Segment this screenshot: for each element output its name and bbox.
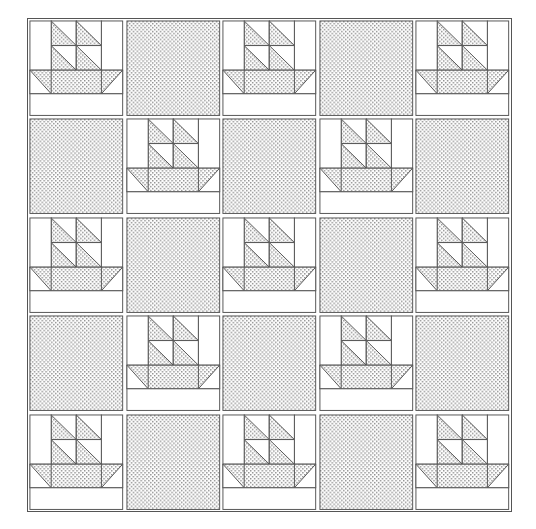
quilt-block-plain-shaded-r0c1 bbox=[125, 19, 222, 117]
quilt-block-plain-shaded-r3c4 bbox=[414, 314, 511, 412]
quilt-block-sailboat-r1c3 bbox=[318, 117, 415, 215]
quilt-block-plain-shaded-r1c0 bbox=[28, 117, 125, 215]
sailboat-block-art bbox=[28, 216, 125, 314]
quilt-block-plain-shaded-r3c0 bbox=[28, 314, 125, 412]
quilt-block-plain-shaded-r4c1 bbox=[125, 413, 222, 511]
quilt-block-plain-shaded-r0c3 bbox=[318, 19, 415, 117]
plain-shaded-block-art bbox=[318, 413, 415, 511]
sailboat-block-art bbox=[414, 216, 511, 314]
plain-shaded-block-art bbox=[221, 314, 318, 412]
sailboat-block-art bbox=[414, 19, 511, 117]
sailboat-block-art bbox=[414, 413, 511, 511]
quilt-block-sailboat-r4c4 bbox=[414, 413, 511, 511]
quilt-block-sailboat-r0c0 bbox=[28, 19, 125, 117]
quilt-block-sailboat-r3c1 bbox=[125, 314, 222, 412]
quilt-block-sailboat-r2c2 bbox=[221, 216, 318, 314]
quilt-block-plain-shaded-r2c1 bbox=[125, 216, 222, 314]
quilt-block-sailboat-r2c0 bbox=[28, 216, 125, 314]
sailboat-block-art bbox=[125, 314, 222, 412]
quilt-canvas: Sailboat Quilt Pattern Five-by-five piec… bbox=[0, 0, 536, 529]
sailboat-block-art bbox=[221, 19, 318, 117]
plain-shaded-block-art bbox=[318, 216, 415, 314]
plain-shaded-block-art bbox=[28, 117, 125, 215]
plain-shaded-block-art bbox=[125, 19, 222, 117]
plain-shaded-block-art bbox=[318, 19, 415, 117]
sailboat-block-art bbox=[28, 413, 125, 511]
plain-shaded-block-art bbox=[28, 314, 125, 412]
quilt-block-plain-shaded-r2c3 bbox=[318, 216, 415, 314]
sailboat-block-art bbox=[318, 117, 415, 215]
plain-shaded-block-art bbox=[414, 117, 511, 215]
plain-shaded-block-art bbox=[414, 314, 511, 412]
sailboat-block-art bbox=[221, 216, 318, 314]
quilt-block-plain-shaded-r1c2 bbox=[221, 117, 318, 215]
sailboat-block-art bbox=[125, 117, 222, 215]
quilt-block-sailboat-r4c0 bbox=[28, 413, 125, 511]
quilt-block-sailboat-r3c3 bbox=[318, 314, 415, 412]
quilt-block-sailboat-r1c1 bbox=[125, 117, 222, 215]
quilt-block-sailboat-r2c4 bbox=[414, 216, 511, 314]
sailboat-block-art bbox=[318, 314, 415, 412]
quilt-block-plain-shaded-r3c2 bbox=[221, 314, 318, 412]
sailboat-block-art bbox=[28, 19, 125, 117]
quilt-block-sailboat-r0c4 bbox=[414, 19, 511, 117]
plain-shaded-block-art bbox=[221, 117, 318, 215]
quilt-block-plain-shaded-r1c4 bbox=[414, 117, 511, 215]
quilt-block-sailboat-r4c2 bbox=[221, 413, 318, 511]
plain-shaded-block-art bbox=[125, 413, 222, 511]
quilt-block-plain-shaded-r4c3 bbox=[318, 413, 415, 511]
quilt-block-sailboat-r0c2 bbox=[221, 19, 318, 117]
quilt-grid bbox=[28, 19, 511, 511]
sailboat-block-art bbox=[221, 413, 318, 511]
plain-shaded-block-art bbox=[125, 216, 222, 314]
quilt-frame bbox=[27, 18, 512, 512]
